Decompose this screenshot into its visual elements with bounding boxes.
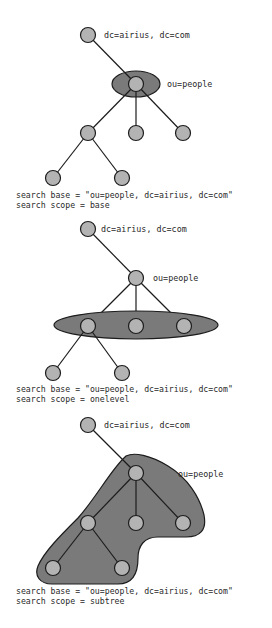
diagram-scope-onelevel: dc=airius, dc=com ou=people search base … [16,222,233,405]
caption-search-base: search base = "ou=people, dc=airius, dc=… [16,384,233,394]
edge [88,84,136,133]
child-node [176,516,191,531]
grandchild-node [115,561,130,576]
grandchild-node [46,561,61,576]
child-node [129,516,144,531]
ou-people-node [129,77,144,92]
grandchild-node [46,171,61,186]
edge [88,229,136,278]
ou-people-node [129,466,144,481]
child-node [81,126,96,141]
root-node [81,418,96,433]
child-node [176,126,191,141]
ou-people-label: ou=people [178,469,223,479]
root-label: dc=airius, dc=com [101,224,187,234]
child-node [81,516,96,531]
diagram-scope-subtree: dc=airius, dc=com ou=people search base … [16,418,233,607]
grandchild-node [46,366,61,381]
ou-people-label: ou=people [167,79,212,89]
caption-search-base: search base = "ou=people, dc=airius, dc=… [16,190,233,200]
child-node [177,319,192,334]
caption-search-scope: search scope = onelevel [16,394,129,404]
ou-people-node [129,271,144,286]
root-node [81,222,96,237]
root-node [81,28,96,43]
grandchild-node [115,366,130,381]
diagram-scope-base: dc=airius, dc=com ou=people search base … [16,28,233,211]
child-node [81,319,96,334]
caption-search-base: search base = "ou=people, dc=airius, dc=… [16,586,233,596]
child-node [129,319,144,334]
edge [88,425,136,473]
root-label: dc=airius, dc=com [104,420,190,430]
caption-search-scope: search scope = subtree [16,596,125,606]
child-node [129,126,144,141]
edge [88,133,122,178]
ou-people-label: ou=people [153,273,198,283]
grandchild-node [115,171,130,186]
edge [88,35,136,84]
edge [136,84,183,133]
edge [53,133,88,178]
caption-search-scope: search scope = base [16,200,110,210]
root-label: dc=airius, dc=com [104,30,190,40]
ldap-search-scope-diagram: dc=airius, dc=com ou=people search base … [0,0,272,628]
